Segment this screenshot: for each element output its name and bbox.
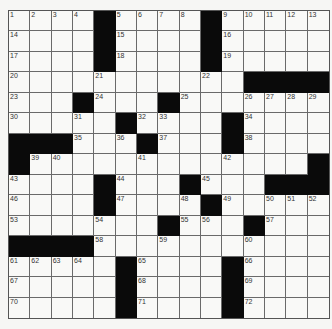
grid-cell[interactable] <box>265 257 286 277</box>
grid-cell[interactable] <box>94 298 115 318</box>
grid-cell[interactable] <box>201 277 222 297</box>
grid-cell[interactable] <box>137 31 158 51</box>
grid-cell[interactable] <box>158 195 179 215</box>
grid-cell[interactable]: 19 <box>222 52 243 72</box>
grid-cell[interactable]: 69 <box>244 277 265 297</box>
grid-cell[interactable]: 10 <box>244 11 265 31</box>
grid-cell[interactable]: 42 <box>222 154 243 174</box>
grid-cell[interactable]: 17 <box>9 52 30 72</box>
grid-cell[interactable] <box>201 257 222 277</box>
grid-cell[interactable]: 58 <box>94 236 115 256</box>
grid-cell[interactable]: 11 <box>265 11 286 31</box>
grid-cell[interactable] <box>137 175 158 195</box>
grid-cell[interactable]: 27 <box>265 93 286 113</box>
grid-cell[interactable]: 34 <box>244 113 265 133</box>
grid-cell[interactable] <box>222 72 243 92</box>
grid-cell[interactable] <box>244 31 265 51</box>
grid-cell[interactable] <box>73 52 94 72</box>
grid-cell[interactable] <box>30 113 51 133</box>
grid-cell[interactable] <box>244 52 265 72</box>
grid-cell[interactable]: 66 <box>244 257 265 277</box>
grid-cell[interactable] <box>308 298 329 318</box>
grid-cell[interactable] <box>180 52 201 72</box>
grid-cell[interactable] <box>94 257 115 277</box>
grid-cell[interactable] <box>52 175 73 195</box>
grid-cell[interactable]: 8 <box>180 11 201 31</box>
grid-cell[interactable] <box>116 93 137 113</box>
grid-cell[interactable]: 36 <box>116 134 137 154</box>
grid-cell[interactable]: 45 <box>201 175 222 195</box>
grid-cell[interactable]: 52 <box>308 195 329 215</box>
grid-cell[interactable] <box>286 257 307 277</box>
grid-cell[interactable] <box>180 134 201 154</box>
grid-cell[interactable]: 41 <box>137 154 158 174</box>
grid-cell[interactable]: 68 <box>137 277 158 297</box>
grid-cell[interactable] <box>116 236 137 256</box>
grid-cell[interactable] <box>201 154 222 174</box>
grid-cell[interactable]: 51 <box>286 195 307 215</box>
grid-cell[interactable] <box>30 52 51 72</box>
grid-cell[interactable] <box>286 277 307 297</box>
grid-cell[interactable] <box>308 257 329 277</box>
grid-cell[interactable] <box>94 113 115 133</box>
grid-cell[interactable]: 37 <box>158 134 179 154</box>
grid-cell[interactable]: 23 <box>9 93 30 113</box>
grid-cell[interactable] <box>201 298 222 318</box>
grid-cell[interactable] <box>158 72 179 92</box>
grid-cell[interactable] <box>180 113 201 133</box>
grid-cell[interactable] <box>158 52 179 72</box>
grid-cell[interactable] <box>244 154 265 174</box>
grid-cell[interactable] <box>30 298 51 318</box>
grid-cell[interactable] <box>180 298 201 318</box>
grid-cell[interactable]: 40 <box>52 154 73 174</box>
grid-cell[interactable] <box>52 52 73 72</box>
grid-cell[interactable]: 9 <box>222 11 243 31</box>
grid-cell[interactable] <box>222 93 243 113</box>
grid-cell[interactable]: 5 <box>116 11 137 31</box>
grid-cell[interactable]: 59 <box>158 236 179 256</box>
grid-cell[interactable]: 70 <box>9 298 30 318</box>
grid-cell[interactable] <box>265 298 286 318</box>
grid-cell[interactable]: 39 <box>30 154 51 174</box>
grid-cell[interactable] <box>52 72 73 92</box>
grid-cell[interactable] <box>116 72 137 92</box>
grid-cell[interactable] <box>52 216 73 236</box>
grid-cell[interactable] <box>158 298 179 318</box>
grid-cell[interactable] <box>73 216 94 236</box>
grid-cell[interactable]: 50 <box>265 195 286 215</box>
grid-cell[interactable]: 7 <box>158 11 179 31</box>
grid-cell[interactable] <box>286 216 307 236</box>
grid-cell[interactable] <box>52 93 73 113</box>
grid-cell[interactable] <box>201 134 222 154</box>
grid-cell[interactable] <box>30 175 51 195</box>
grid-cell[interactable] <box>286 31 307 51</box>
grid-cell[interactable] <box>30 277 51 297</box>
grid-cell[interactable]: 60 <box>244 236 265 256</box>
grid-cell[interactable]: 55 <box>180 216 201 236</box>
grid-cell[interactable] <box>180 277 201 297</box>
grid-cell[interactable] <box>52 298 73 318</box>
grid-cell[interactable] <box>244 175 265 195</box>
grid-cell[interactable] <box>180 154 201 174</box>
grid-cell[interactable]: 71 <box>137 298 158 318</box>
grid-cell[interactable]: 64 <box>73 257 94 277</box>
grid-cell[interactable] <box>52 113 73 133</box>
grid-cell[interactable] <box>180 236 201 256</box>
grid-cell[interactable] <box>52 31 73 51</box>
grid-cell[interactable] <box>137 72 158 92</box>
grid-cell[interactable] <box>116 216 137 236</box>
grid-cell[interactable] <box>222 216 243 236</box>
grid-cell[interactable] <box>158 277 179 297</box>
grid-cell[interactable] <box>308 52 329 72</box>
grid-cell[interactable] <box>30 31 51 51</box>
grid-cell[interactable]: 2 <box>30 11 51 31</box>
grid-cell[interactable] <box>265 277 286 297</box>
grid-cell[interactable]: 62 <box>30 257 51 277</box>
grid-cell[interactable] <box>30 216 51 236</box>
grid-cell[interactable]: 28 <box>286 93 307 113</box>
grid-cell[interactable]: 6 <box>137 11 158 31</box>
grid-cell[interactable]: 35 <box>73 134 94 154</box>
grid-cell[interactable] <box>265 31 286 51</box>
grid-cell[interactable] <box>308 134 329 154</box>
grid-cell[interactable] <box>73 154 94 174</box>
